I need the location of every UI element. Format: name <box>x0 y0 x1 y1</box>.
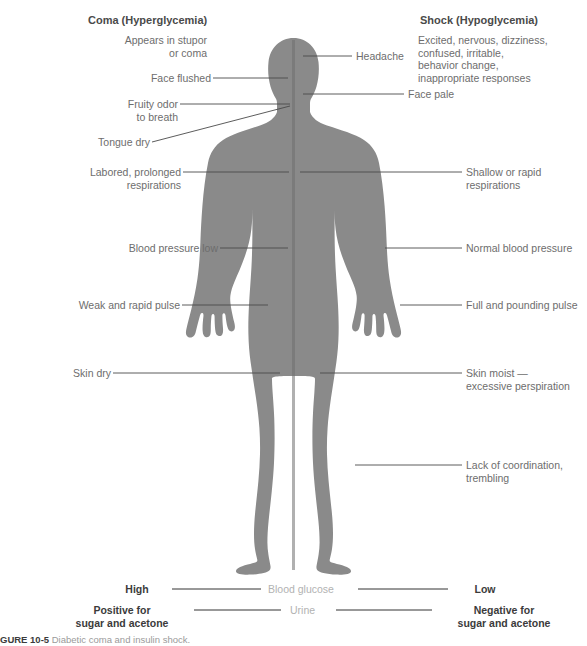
left-column-heading: Coma (Hyperglycemia) <box>88 14 207 27</box>
body-midline-divider <box>292 40 295 570</box>
label-blood-pressure-low: Blood pressure low <box>0 242 218 255</box>
label-weak-rapid-pulse: Weak and rapid pulse <box>0 299 180 312</box>
figure-diagram: Coma (Hyperglycemia) Appears in stupor o… <box>0 0 587 646</box>
glucose-measure-label: Blood glucose <box>268 583 334 596</box>
label-labored-respirations: Labored, prolonged respirations <box>0 166 181 191</box>
body-silhouette <box>186 38 401 575</box>
label-skin-moist: Skin moist — excessive perspiration <box>466 367 587 392</box>
figure-caption-label: GURE 10-5 <box>0 634 49 645</box>
label-fruity-odor: Fruity odor to breath <box>0 98 178 123</box>
left-intro-text: Appears in stupor or coma <box>0 34 207 59</box>
urine-measure-label: Urine <box>290 604 315 617</box>
urine-left-value: Positive for sugar and acetone <box>56 604 188 629</box>
figure-caption-text: Diabetic coma and insulin shock. <box>52 634 190 645</box>
label-skin-dry: Skin dry <box>0 367 111 380</box>
glucose-left-value: High <box>108 583 166 596</box>
label-face-flushed: Face flushed <box>0 72 211 85</box>
label-headache: Headache <box>356 50 476 63</box>
glucose-right-value: Low <box>456 583 514 596</box>
label-shallow-respirations: Shallow or rapid respirations <box>466 166 586 191</box>
label-normal-blood-pressure: Normal blood pressure <box>466 242 587 255</box>
right-column-heading: Shock (Hypoglycemia) <box>420 14 538 27</box>
label-tongue-dry: Tongue dry <box>0 136 150 149</box>
urine-right-value: Negative for sugar and acetone <box>438 604 570 629</box>
label-lack-coordination: Lack of coordination, trembling <box>466 459 586 484</box>
label-face-pale: Face pale <box>408 88 528 101</box>
figure-caption: GURE 10-5 Diabetic coma and insulin shoc… <box>0 634 587 646</box>
label-full-pounding-pulse: Full and pounding pulse <box>466 299 587 312</box>
